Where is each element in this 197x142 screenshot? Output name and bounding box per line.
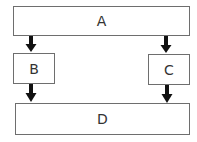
- node-c: C: [148, 54, 190, 85]
- node-b: B: [13, 53, 55, 84]
- node-d: D: [15, 103, 190, 135]
- node-b-label: B: [29, 61, 39, 77]
- arrow-a-to-b: [26, 36, 37, 52]
- node-a: A: [13, 6, 190, 36]
- arrow-b-to-d: [26, 84, 37, 102]
- arrow-a-to-c: [161, 36, 172, 53]
- node-d-label: D: [97, 111, 108, 127]
- node-c-label: C: [164, 62, 174, 78]
- node-a-label: A: [97, 13, 107, 29]
- arrow-c-to-d: [162, 85, 173, 103]
